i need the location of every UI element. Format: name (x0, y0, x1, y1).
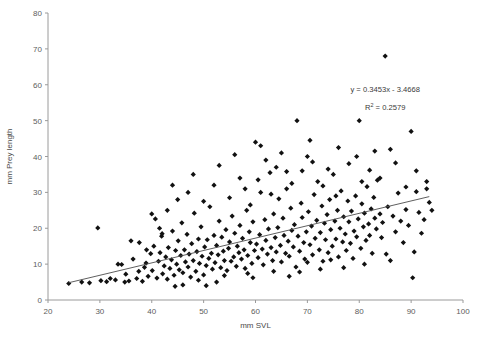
data-point-marker (250, 219, 255, 224)
data-point-marker (188, 274, 193, 279)
data-point-marker (209, 251, 214, 256)
data-point-marker (312, 192, 317, 197)
data-point-marker (165, 277, 170, 282)
data-point-marker (223, 227, 228, 232)
data-point-marker (280, 216, 285, 221)
data-point-marker (199, 254, 204, 259)
data-point-marker (328, 227, 333, 232)
y-axis: 01020304050607080 (33, 9, 48, 305)
x-tick-label: 90 (407, 307, 416, 316)
data-point-marker (183, 259, 188, 264)
data-point-marker (354, 154, 359, 159)
data-point-marker (396, 190, 401, 195)
data-point-marker (362, 262, 367, 267)
data-point-marker (252, 248, 257, 253)
data-point-marker (153, 216, 158, 221)
data-point-marker (248, 240, 253, 245)
data-point-marker (281, 233, 286, 238)
data-point-marker (424, 179, 429, 184)
data-point-marker (294, 118, 299, 123)
data-point-marker (241, 247, 246, 252)
data-point-marker (326, 250, 331, 255)
x-tick-label: 100 (456, 307, 470, 316)
data-point-marker (265, 251, 270, 256)
data-point-marker (184, 232, 189, 237)
x-tick-label: 60 (251, 307, 260, 316)
data-point-marker (162, 263, 167, 268)
data-point-marker (346, 219, 351, 224)
data-point-marker (279, 259, 284, 264)
data-point-marker (237, 175, 242, 180)
data-point-marker (314, 218, 319, 223)
data-point-marker (249, 261, 254, 266)
data-point-marker (130, 257, 135, 262)
data-point-marker (324, 212, 329, 217)
data-point-marker (150, 268, 155, 273)
data-point-marker (379, 235, 384, 240)
y-tick-label: 10 (33, 260, 42, 269)
x-tick-label: 80 (355, 307, 364, 316)
data-point-marker (337, 226, 342, 231)
data-point-marker (333, 236, 338, 241)
data-point-marker (171, 273, 176, 278)
data-point-marker (383, 53, 388, 58)
data-point-marker (287, 254, 292, 259)
data-point-marker (409, 129, 414, 134)
data-point-marker (318, 230, 323, 235)
data-point-marker (393, 160, 398, 165)
x-tick-label: 20 (44, 307, 53, 316)
data-point-marker (211, 233, 216, 238)
data-point-marker (410, 275, 415, 280)
data-point-marker (160, 271, 165, 276)
data-point-marker (237, 223, 242, 228)
data-point-marker (412, 249, 417, 254)
data-point-marker (388, 147, 393, 152)
data-point-marker (255, 177, 260, 182)
data-point-marker (367, 233, 372, 238)
y-tick-label: 60 (33, 81, 42, 90)
data-point-marker (318, 267, 323, 272)
data-point-marker (414, 168, 419, 173)
data-point-marker (305, 154, 310, 159)
data-point-marker (227, 195, 232, 200)
x-axis: 2030405060708090100 (44, 300, 471, 316)
data-point-marker (315, 179, 320, 184)
data-point-marker (344, 248, 349, 253)
data-point-marker (323, 237, 328, 242)
data-point-marker (270, 258, 275, 263)
r-squared-value: = 0.2579 (373, 103, 405, 112)
data-point-marker (297, 269, 302, 274)
y-tick-label: 70 (33, 45, 42, 54)
data-point-marker (319, 203, 324, 208)
trendline-layer (69, 197, 430, 283)
data-point-marker (320, 183, 325, 188)
data-point-marker (306, 209, 311, 214)
data-point-marker (313, 236, 318, 241)
data-point-marker (148, 251, 153, 256)
data-point-marker (113, 277, 118, 282)
scatter-plot-figure: 01020304050607080 2030405060708090100 y … (0, 0, 485, 338)
data-point-marker (288, 206, 293, 211)
data-point-marker (189, 241, 194, 246)
data-point-marker (346, 161, 351, 166)
data-point-marker (179, 220, 184, 225)
data-point-marker (226, 246, 231, 251)
data-point-marker (140, 279, 145, 284)
y-tick-label: 80 (33, 9, 42, 18)
data-point-marker (361, 224, 366, 229)
data-point-marker (336, 254, 341, 259)
data-point-marker (177, 267, 182, 272)
data-point-marker (198, 224, 203, 229)
data-point-marker (357, 118, 362, 123)
data-point-marker (345, 198, 350, 203)
regression-equation: y = 0.3453x - 3.4668 (350, 85, 419, 94)
data-point-marker (258, 143, 263, 148)
data-point-marker (398, 218, 403, 223)
data-point-marker (268, 245, 273, 250)
data-point-marker (222, 273, 227, 278)
data-point-marker (136, 269, 141, 274)
data-point-marker (414, 189, 419, 194)
data-point-marker (173, 248, 178, 253)
data-point-marker (320, 259, 325, 264)
data-point-marker (95, 225, 100, 230)
